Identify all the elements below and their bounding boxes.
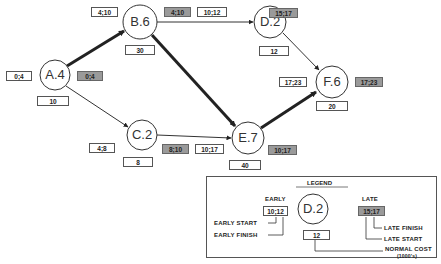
legend-early-box: 10;12: [263, 206, 288, 216]
legend-early-finish: EARLY FINISH: [214, 232, 257, 238]
edge-b-e: [152, 35, 235, 126]
d-cost-box: 12: [259, 46, 289, 56]
e-late-box: 10;17: [268, 145, 297, 155]
b-cost-box: 30: [125, 45, 155, 55]
f-early-box: 17;23: [279, 77, 307, 87]
f-late-box: 17;23: [355, 77, 383, 87]
e-early-box: 10;17: [195, 144, 224, 154]
c-cost-box: 8: [123, 157, 153, 167]
e-cost-box: 40: [229, 160, 261, 170]
edge-a-b: [67, 31, 124, 66]
legend-cost-box: 12: [303, 230, 330, 240]
edge-c-e: [157, 135, 231, 138]
node-c-label: C.2: [125, 128, 159, 142]
node-a-label: A.4: [38, 68, 72, 82]
a-early-box: 0;4: [6, 71, 32, 81]
legend-late-finish-connector: [374, 217, 382, 228]
a-cost-box: 10: [37, 96, 69, 106]
d-early-box: 10;12: [197, 7, 227, 17]
a-late-box: 0;4: [77, 71, 103, 81]
edge-a-c: [66, 86, 128, 127]
legend-early-start: EARLY START: [214, 220, 257, 226]
node-b-label: B.6: [123, 15, 157, 29]
b-late-box: 4;10: [164, 7, 191, 17]
legend-late-finish: LATE FINISH: [384, 225, 423, 231]
legend-cost-connector: [315, 239, 383, 251]
legend-title: LEGEND: [307, 180, 332, 186]
legend-early-header: EARLY: [265, 196, 286, 202]
edge-e-f: [261, 92, 316, 128]
legend-normal-cost: NORMAL COST: [385, 246, 432, 252]
node-f-label: F.6: [315, 75, 349, 89]
legend-early-finish-connector: [268, 217, 283, 235]
legend-late-box: 15;17: [358, 206, 385, 216]
c-early-box: 4;8: [89, 143, 115, 153]
legend-late-start: LATE START: [384, 236, 422, 242]
legend-node-label: D.2: [296, 202, 330, 216]
f-cost-box: 20: [316, 101, 348, 111]
node-e-label: E.7: [231, 131, 265, 145]
legend-early-start-connector: [268, 217, 276, 223]
b-early-box: 4;10: [91, 7, 118, 17]
d-late-box: 15;17: [269, 8, 298, 18]
legend-normal-cost-unit: (1000's): [397, 253, 417, 259]
legend-late-header: LATE: [362, 196, 378, 202]
c-late-box: 8;10: [162, 144, 189, 154]
